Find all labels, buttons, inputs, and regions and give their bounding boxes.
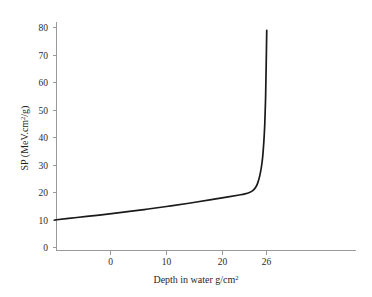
x-tick-label-26: 26 — [262, 257, 272, 267]
x-axis-title-base: Depth in water g/cm — [153, 274, 235, 285]
y-tick-label-60: 60 — [39, 78, 49, 88]
x-tick-label-0: 0 — [108, 257, 113, 267]
y-tick-label-10: 10 — [39, 216, 49, 226]
y-tick-label-80: 80 — [39, 23, 49, 33]
y-axis-ticks — [53, 28, 57, 248]
x-tick-label-10: 10 — [162, 257, 172, 267]
x-axis-title: Depth in water g/cm2 — [153, 274, 238, 286]
plot-area: 80 70 60 50 40 30 20 10 0 0 10 20 26 Dep… — [0, 0, 372, 297]
y-axis-title: SP (MeV.cm2/g) — [19, 106, 32, 171]
y-tick-label-30: 30 — [39, 161, 49, 171]
y-tick-label-70: 70 — [39, 51, 49, 61]
y-axis-title-post: /g) — [19, 106, 31, 117]
x-axis-title-superscript: 2 — [235, 274, 238, 281]
y-tick-label-0: 0 — [43, 243, 48, 253]
y-tick-label-50: 50 — [39, 106, 49, 116]
y-tick-label-20: 20 — [39, 188, 49, 198]
x-tick-label-20: 20 — [218, 257, 228, 267]
chart-figure: 80 70 60 50 40 30 20 10 0 0 10 20 26 Dep… — [0, 0, 372, 297]
y-tick-label-40: 40 — [39, 133, 49, 143]
bragg-curve — [55, 30, 267, 220]
x-axis-ticks — [111, 251, 267, 255]
y-axis-title-pre: SP (MeV.cm — [19, 120, 31, 171]
